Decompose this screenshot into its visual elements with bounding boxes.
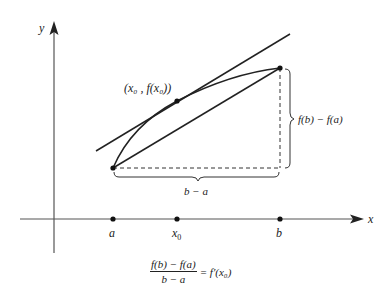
formula-numerator: f(b) − f(a) bbox=[150, 258, 197, 272]
vertical-brace-label: f(b) − f(a) bbox=[298, 113, 343, 126]
point-a-on-curve bbox=[110, 165, 115, 170]
formula-fraction: f(b) − f(a) b − a bbox=[150, 258, 197, 285]
x-axis-point-b bbox=[277, 216, 282, 221]
y-axis-label: y bbox=[38, 21, 45, 35]
label-b: b bbox=[276, 226, 282, 240]
x-axis-label: x bbox=[367, 212, 374, 226]
formula-denominator: b − a bbox=[161, 272, 185, 285]
point-b-on-curve bbox=[277, 65, 282, 70]
x-axis-point-x0 bbox=[174, 216, 179, 221]
formula-rhs: = f′(x₀) bbox=[200, 266, 232, 278]
label-x0: x0 bbox=[171, 226, 181, 242]
vertical-brace bbox=[285, 69, 294, 168]
label-a: a bbox=[109, 226, 115, 240]
mvt-formula: f(b) − f(a) b − a = f′(x₀) bbox=[150, 258, 231, 285]
tangent-point bbox=[174, 98, 179, 103]
x-axis-point-a bbox=[110, 216, 115, 221]
x-axis-points: a x0 b bbox=[109, 216, 283, 242]
mean-value-theorem-diagram: x y (x₀ , f(x₀)) f(b) − f(a) b − a a x0 … bbox=[0, 0, 392, 298]
horizontal-brace-label: b − a bbox=[184, 185, 208, 197]
tangent-point-label: (x₀ , f(x₀)) bbox=[124, 81, 171, 95]
axes: x y bbox=[20, 21, 374, 253]
horizontal-brace bbox=[114, 172, 279, 181]
